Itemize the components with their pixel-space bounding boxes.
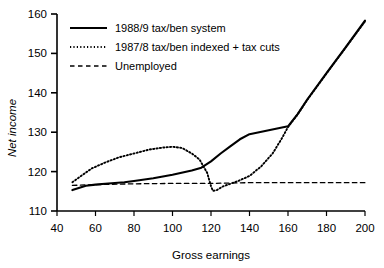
legend-label-2: 1987/8 tax/ben indexed + tax cuts: [115, 41, 280, 53]
y-axis-title: Net income: [6, 99, 18, 157]
legend-label-1: 1988/9 tax/ben system: [115, 22, 226, 34]
x-axis-title: Gross earnings: [172, 249, 250, 261]
x-axis-tick-labels: 406080100120140160180200: [51, 222, 375, 234]
y-tick-label: 130: [28, 126, 47, 138]
y-axis-ticks: [51, 14, 57, 211]
x-tick-label: 140: [240, 222, 259, 234]
line-chart: 110120130140150160 406080100120140160180…: [0, 0, 384, 268]
y-tick-label: 160: [28, 8, 47, 20]
y-axis-tick-labels: 110120130140150160: [28, 8, 47, 217]
x-tick-label: 180: [317, 222, 336, 234]
y-tick-label: 120: [28, 166, 47, 178]
x-tick-label: 60: [89, 222, 102, 234]
x-tick-label: 40: [51, 222, 64, 234]
x-tick-label: 160: [278, 222, 297, 234]
y-tick-label: 150: [28, 47, 47, 59]
chart-container: 110120130140150160 406080100120140160180…: [0, 0, 384, 268]
x-tick-label: 100: [163, 222, 182, 234]
chart-legend: 1988/9 tax/ben system1987/8 tax/ben inde…: [70, 22, 280, 72]
x-tick-label: 80: [128, 222, 141, 234]
legend-label-3: Unemployed: [115, 60, 177, 72]
x-tick-label: 120: [201, 222, 220, 234]
y-tick-label: 110: [29, 205, 47, 217]
x-tick-label: 200: [355, 222, 374, 234]
y-tick-label: 140: [28, 87, 47, 99]
